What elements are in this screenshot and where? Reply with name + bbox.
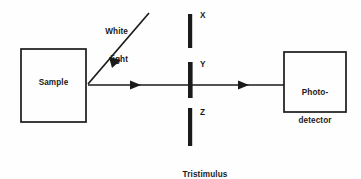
- diagram-canvas: Sample Photo- detector White light X Y Z…: [0, 0, 361, 179]
- photodetector-label-line2: detector: [284, 116, 346, 125]
- filter-bar-x-label: X: [200, 11, 206, 20]
- filter-bar-z: [188, 108, 192, 146]
- white-light-label-line2: light: [82, 55, 128, 64]
- tristimulus-filter-caption: Tristimulus filter: [160, 152, 250, 179]
- sample-block-label: Sample: [21, 78, 86, 87]
- filter-bar-x: [188, 14, 192, 48]
- filter-bar-z-label: Z: [200, 108, 205, 117]
- beam-arrowhead-1: [130, 81, 141, 90]
- photodetector-block-label: Photo- detector: [284, 70, 346, 144]
- filter-bar-y: [188, 62, 193, 98]
- tristimulus-caption-line1: Tristimulus: [160, 170, 250, 179]
- beam-arrowhead-2: [238, 81, 249, 90]
- white-light-label-line1: White: [82, 27, 128, 36]
- white-light-label: White light: [82, 9, 128, 83]
- photodetector-label-line1: Photo-: [284, 88, 346, 97]
- filter-bar-y-label: Y: [200, 60, 206, 69]
